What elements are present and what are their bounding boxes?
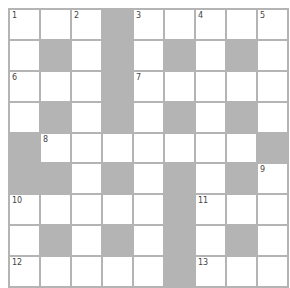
answer-cell[interactable] <box>72 103 101 132</box>
clue-number: 10 <box>12 196 22 205</box>
black-square <box>103 41 132 70</box>
black-square <box>10 134 39 163</box>
black-square <box>41 41 70 70</box>
black-square <box>103 164 132 193</box>
answer-cell[interactable] <box>227 195 256 224</box>
black-square <box>227 164 256 193</box>
answer-cell[interactable] <box>103 134 132 163</box>
clue-number: 12 <box>12 258 22 267</box>
black-square <box>227 226 256 255</box>
answer-cell[interactable] <box>134 226 163 255</box>
answer-cell[interactable] <box>196 41 225 70</box>
black-square <box>165 226 194 255</box>
clue-number: 6 <box>12 73 17 82</box>
black-square <box>165 41 194 70</box>
answer-cell[interactable] <box>134 195 163 224</box>
answer-cell[interactable] <box>72 226 101 255</box>
black-square <box>103 10 132 39</box>
clue-number: 8 <box>43 135 48 144</box>
clue-number: 5 <box>260 11 265 20</box>
answer-cell[interactable] <box>134 134 163 163</box>
answer-cell[interactable]: 10 <box>10 195 39 224</box>
answer-cell[interactable]: 6 <box>10 72 39 101</box>
answer-cell[interactable] <box>227 10 256 39</box>
answer-cell[interactable] <box>72 72 101 101</box>
answer-cell[interactable] <box>41 72 70 101</box>
answer-cell[interactable]: 4 <box>196 10 225 39</box>
black-square <box>227 41 256 70</box>
answer-cell[interactable] <box>196 103 225 132</box>
black-square <box>165 195 194 224</box>
answer-cell[interactable] <box>72 41 101 70</box>
answer-cell[interactable] <box>134 164 163 193</box>
black-square <box>258 134 287 163</box>
black-square <box>41 226 70 255</box>
answer-cell[interactable] <box>134 103 163 132</box>
clue-number: 7 <box>136 73 141 82</box>
black-square <box>103 226 132 255</box>
black-square <box>41 103 70 132</box>
answer-cell[interactable] <box>227 257 256 286</box>
clue-number: 2 <box>74 11 79 20</box>
answer-cell[interactable]: 1 <box>10 10 39 39</box>
clue-number: 13 <box>198 258 208 267</box>
answer-cell[interactable]: 5 <box>258 10 287 39</box>
black-square <box>165 257 194 286</box>
answer-cell[interactable] <box>72 195 101 224</box>
answer-cell[interactable] <box>258 195 287 224</box>
black-square <box>41 164 70 193</box>
answer-cell[interactable] <box>258 103 287 132</box>
clue-number: 11 <box>198 196 208 205</box>
answer-cell[interactable]: 13 <box>196 257 225 286</box>
answer-cell[interactable] <box>227 134 256 163</box>
answer-cell[interactable] <box>41 10 70 39</box>
black-square <box>165 164 194 193</box>
answer-cell[interactable] <box>196 164 225 193</box>
answer-cell[interactable] <box>10 41 39 70</box>
answer-cell[interactable]: 3 <box>134 10 163 39</box>
clue-number: 3 <box>136 11 141 20</box>
answer-cell[interactable]: 8 <box>41 134 70 163</box>
clue-number: 1 <box>12 11 17 20</box>
answer-cell[interactable] <box>10 226 39 255</box>
answer-cell[interactable] <box>103 257 132 286</box>
answer-cell[interactable]: 11 <box>196 195 225 224</box>
answer-cell[interactable] <box>196 72 225 101</box>
answer-cell[interactable]: 2 <box>72 10 101 39</box>
black-square <box>103 72 132 101</box>
answer-cell[interactable] <box>72 134 101 163</box>
answer-cell[interactable] <box>134 41 163 70</box>
answer-cell[interactable] <box>41 195 70 224</box>
answer-cell[interactable] <box>196 134 225 163</box>
answer-cell[interactable] <box>134 257 163 286</box>
answer-cell[interactable] <box>165 134 194 163</box>
black-square <box>165 103 194 132</box>
answer-cell[interactable] <box>72 257 101 286</box>
crossword-grid: 12345678910111213 <box>8 8 289 288</box>
answer-cell[interactable] <box>258 41 287 70</box>
answer-cell[interactable] <box>227 72 256 101</box>
answer-cell[interactable] <box>196 226 225 255</box>
answer-cell[interactable] <box>165 10 194 39</box>
answer-cell[interactable]: 9 <box>258 164 287 193</box>
black-square <box>103 103 132 132</box>
black-square <box>10 164 39 193</box>
answer-cell[interactable] <box>165 72 194 101</box>
black-square <box>227 103 256 132</box>
answer-cell[interactable] <box>10 103 39 132</box>
answer-cell[interactable] <box>103 195 132 224</box>
clue-number: 9 <box>260 165 265 174</box>
answer-cell[interactable] <box>258 72 287 101</box>
clue-number: 4 <box>198 11 203 20</box>
answer-cell[interactable] <box>41 257 70 286</box>
answer-cell[interactable]: 7 <box>134 72 163 101</box>
answer-cell[interactable] <box>258 226 287 255</box>
answer-cell[interactable] <box>258 257 287 286</box>
answer-cell[interactable] <box>72 164 101 193</box>
answer-cell[interactable]: 12 <box>10 257 39 286</box>
